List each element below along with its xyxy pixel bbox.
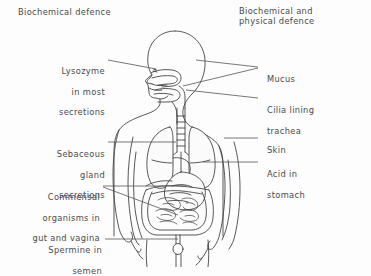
- leader-cilia: [186, 90, 258, 98]
- pelvis-genital: [173, 235, 183, 267]
- leader-mucus-lower: [183, 68, 258, 86]
- leader-lysozyme: [108, 60, 156, 69]
- label-spermine-line2: semen: [72, 266, 102, 276]
